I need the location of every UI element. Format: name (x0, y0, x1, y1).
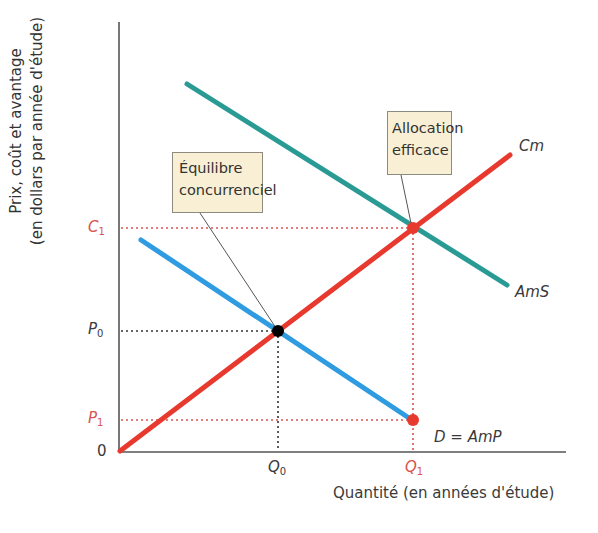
equilibrium-callout-line1: Équilibre (179, 157, 256, 179)
equilibrium-callout: Équilibre concurrenciel (172, 152, 263, 213)
tick-q1-sub: 1 (417, 466, 423, 477)
efficient-point (407, 222, 419, 234)
equilibrium-leader (200, 213, 278, 331)
tick-c1-sub: 1 (98, 226, 104, 237)
tick-q0-main: Q (268, 458, 280, 476)
tick-q1: Q1 (405, 458, 423, 477)
cm-label: Cm (519, 137, 544, 155)
tick-p1-sub: 1 (97, 417, 103, 428)
demand-label: D = AmP (434, 428, 502, 446)
diagram-canvas (0, 0, 598, 533)
tick-q1-main: Q (405, 458, 417, 476)
x-axis-label: Quantité (en années d'étude) (333, 484, 554, 502)
efficient-callout-line1: Allocation (392, 117, 447, 139)
tick-q0-sub: 0 (280, 466, 286, 477)
tick-c1-main: C (88, 218, 98, 236)
ams-label: AmS (515, 283, 549, 301)
tick-p0-sub: 0 (97, 328, 103, 339)
tick-p1-main: P (88, 409, 97, 427)
tick-q0: Q0 (268, 458, 286, 477)
tick-c1: C1 (88, 218, 105, 237)
tick-p0-main: P (88, 320, 97, 338)
efficient-callout-line2: efficace (392, 139, 447, 161)
tick-p0: P0 (88, 320, 103, 339)
y-axis-label-line2: (en dollars par année d'étude) (27, 0, 48, 296)
y-axis-label-line1: Prix, coût et avantage (6, 0, 27, 296)
tick-p1: P1 (88, 409, 103, 428)
y-axis-label: Prix, coût et avantage (en dollars par a… (6, 0, 48, 296)
equilibrium-callout-line2: concurrenciel (179, 179, 256, 201)
origin-label: 0 (97, 442, 107, 460)
efficient-callout: Allocation efficace (387, 111, 452, 175)
p1-point (407, 414, 419, 426)
equilibrium-point (272, 325, 284, 337)
